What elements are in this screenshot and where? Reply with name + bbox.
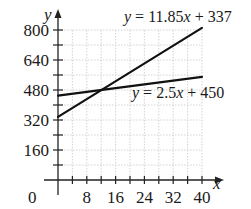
tick-labels: 816243240160320480640800 — [24, 21, 211, 207]
eq2-x: x — [175, 84, 183, 101]
origin-label: 0 — [28, 188, 37, 207]
x-tick-label: 32 — [165, 188, 182, 207]
eq2-coef: = 2.5 — [139, 84, 176, 101]
grid — [58, 30, 202, 180]
y-axis-arrow-icon — [55, 9, 62, 18]
x-tick-label: 40 — [194, 188, 211, 207]
x-tick-label: 24 — [136, 188, 154, 207]
y-axis-label: y — [42, 5, 52, 24]
eq1-coef: = 11.85 — [131, 8, 183, 25]
eq2-const: + 450 — [183, 84, 224, 101]
y-tick-label: 480 — [24, 81, 50, 100]
y-tick-label: 640 — [24, 51, 50, 70]
y-tick-label: 160 — [24, 141, 50, 160]
x-axis-label: x — [212, 174, 221, 193]
linear-equations-chart: 816243240160320480640800 y x 0 y = 11.85… — [0, 0, 251, 209]
eq1-x: x — [183, 8, 191, 25]
x-tick-label: 16 — [107, 188, 124, 207]
x-tick-label: 8 — [83, 188, 92, 207]
equation-label-2: y = 2.5x + 450 — [130, 84, 224, 102]
equation-label-1: y = 11.85x + 337 — [122, 8, 232, 26]
eq1-const: + 337 — [191, 8, 232, 25]
axes — [44, 9, 224, 195]
y-tick-label: 320 — [24, 111, 50, 130]
